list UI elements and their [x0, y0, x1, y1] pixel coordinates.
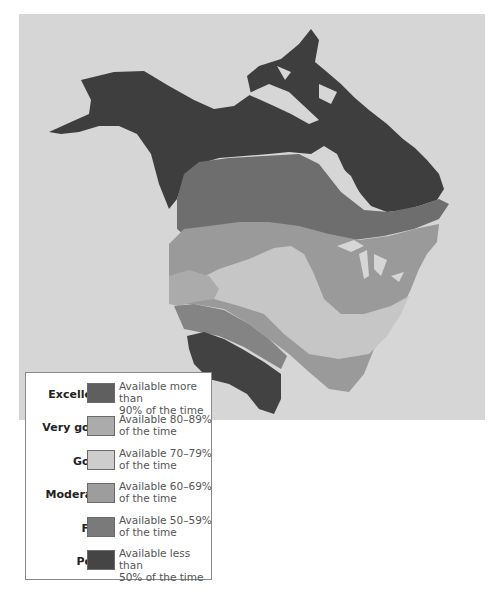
legend-swatch	[87, 450, 115, 470]
legend-desc: Available more than90% of the time	[119, 380, 214, 416]
legend-item-excellent: Excellent Available more than90% of the …	[26, 383, 211, 409]
legend-item-very-good: Very good Available 80–89%of the time	[26, 416, 211, 442]
gulf-of-mexico	[289, 394, 379, 420]
legend-item-moderate: Moderate Available 60–69%of the time	[26, 483, 211, 509]
legend-swatch	[87, 517, 115, 537]
legend-swatch	[87, 383, 115, 403]
legend-desc: Available 80–89%of the time	[119, 413, 214, 437]
legend-swatch	[87, 416, 115, 436]
map-frame	[19, 14, 485, 420]
legend-swatch	[87, 483, 115, 503]
legend-desc: Available less than50% of the time	[119, 547, 214, 583]
north-america-map	[19, 14, 485, 420]
legend-desc: Available 70–79%of the time	[119, 447, 214, 471]
legend-item-fair: Fair Available 50–59%of the time	[26, 517, 211, 543]
legend-desc: Available 60–69%of the time	[119, 480, 214, 504]
legend-item-poor: Poor Available less than50% of the time	[26, 550, 211, 576]
legend-desc: Available 50–59%of the time	[119, 514, 214, 538]
legend-swatch	[87, 550, 115, 570]
legend-item-good: Good Available 70–79%of the time	[26, 450, 211, 476]
legend: Excellent Available more than90% of the …	[25, 372, 212, 580]
